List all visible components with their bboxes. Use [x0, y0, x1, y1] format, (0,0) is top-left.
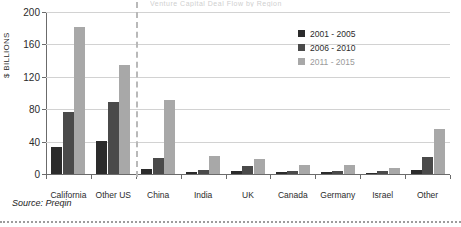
- bar[interactable]: [411, 170, 422, 174]
- bar[interactable]: [344, 165, 355, 174]
- bar[interactable]: [242, 166, 253, 174]
- x-axis-category-label: UK: [242, 190, 254, 200]
- region-separator: [136, 2, 138, 177]
- x-axis-tick: [405, 175, 406, 179]
- bar[interactable]: [276, 172, 287, 174]
- x-axis-tick: [226, 175, 227, 179]
- bar[interactable]: [389, 168, 400, 174]
- y-axis-tick-label: 0: [34, 169, 40, 180]
- bar[interactable]: [63, 112, 74, 174]
- legend-label: 2006 - 2010: [310, 43, 355, 53]
- bar[interactable]: [186, 172, 197, 174]
- bar[interactable]: [321, 172, 332, 174]
- chart-figure: Venture Capital Deal Flow by Region $ BI…: [0, 0, 461, 227]
- x-axis-category-label: Israel: [372, 190, 393, 200]
- y-axis-tick-label: 160: [23, 39, 40, 50]
- legend-label: 2001 - 2005: [310, 29, 355, 39]
- x-axis-tick: [360, 175, 361, 179]
- x-axis-category-label: Other: [417, 190, 438, 200]
- bottom-divider: [0, 221, 461, 223]
- x-axis-category-label: Other US: [96, 190, 131, 200]
- bar[interactable]: [332, 171, 343, 174]
- bar-group: [226, 12, 271, 174]
- x-axis-tick: [46, 175, 47, 179]
- bar[interactable]: [108, 102, 119, 174]
- bar[interactable]: [299, 165, 310, 174]
- bar[interactable]: [209, 156, 220, 174]
- bar-group: [91, 12, 136, 174]
- bar[interactable]: [434, 129, 445, 174]
- bar[interactable]: [51, 147, 62, 174]
- legend-swatch-icon: [298, 44, 305, 51]
- bar[interactable]: [141, 169, 152, 174]
- bar-group: [136, 12, 181, 174]
- y-axis-title: $ BILLIONS: [2, 32, 11, 78]
- legend-item[interactable]: 2006 - 2010: [298, 41, 393, 54]
- bar[interactable]: [74, 27, 85, 174]
- bar[interactable]: [198, 170, 209, 174]
- legend-item[interactable]: 2001 - 2005: [298, 27, 393, 40]
- x-axis-category-label: India: [194, 190, 212, 200]
- y-axis-tick-label: 40: [29, 136, 40, 147]
- legend-swatch-icon: [298, 30, 305, 37]
- x-axis-category-label: Canada: [278, 190, 308, 200]
- legend-item[interactable]: 2011 - 2015: [298, 55, 393, 68]
- bar-group: [46, 12, 91, 174]
- x-axis-tick: [450, 175, 451, 179]
- source-note: Source: Preqin: [12, 198, 72, 208]
- bar[interactable]: [377, 171, 388, 174]
- x-axis-tick: [270, 175, 271, 179]
- bar[interactable]: [96, 141, 107, 174]
- bar[interactable]: [422, 157, 433, 174]
- legend-label: 2011 - 2015: [310, 57, 355, 67]
- y-axis-tick-label: 120: [23, 71, 40, 82]
- y-axis-tick-label: 80: [29, 104, 40, 115]
- y-axis-tick-label: 200: [23, 7, 40, 18]
- figure-title-cropped: Venture Capital Deal Flow by Region: [150, 0, 350, 7]
- x-axis-tick: [181, 175, 182, 179]
- legend-swatch-icon: [298, 58, 305, 65]
- x-axis-category-label: China: [147, 190, 169, 200]
- bar[interactable]: [287, 171, 298, 174]
- bar[interactable]: [366, 173, 377, 174]
- bar[interactable]: [164, 100, 175, 174]
- bar[interactable]: [254, 159, 265, 174]
- x-axis-line: [46, 174, 450, 175]
- bar[interactable]: [153, 158, 164, 174]
- x-axis-tick: [315, 175, 316, 179]
- x-axis-category-label: Germany: [320, 190, 355, 200]
- x-axis-tick: [91, 175, 92, 179]
- bar-group: [181, 12, 226, 174]
- bar[interactable]: [231, 171, 242, 174]
- bar-group: [405, 12, 450, 174]
- legend: 2001 - 2005 2006 - 2010 2011 - 2015: [298, 27, 393, 69]
- bar[interactable]: [119, 65, 130, 174]
